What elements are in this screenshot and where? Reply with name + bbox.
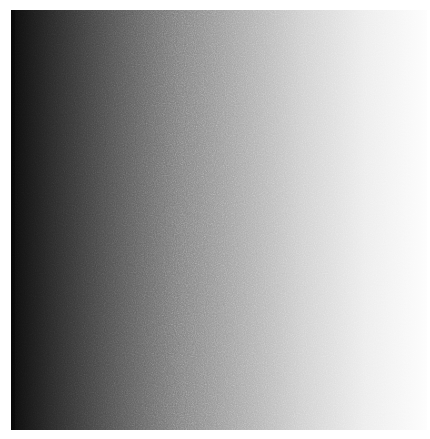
left-edge-shade xyxy=(11,10,15,430)
noise-texture xyxy=(11,10,427,430)
gradient-noise-image xyxy=(11,10,427,430)
